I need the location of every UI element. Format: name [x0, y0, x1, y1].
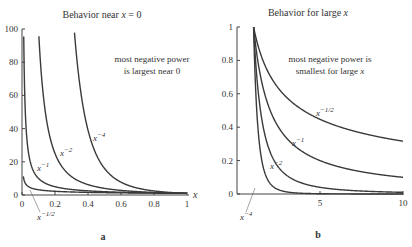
- panel-b-label-leader: [246, 188, 255, 212]
- y-tick-label: 40: [9, 124, 19, 134]
- y-tick-label: 0.6: [222, 89, 234, 99]
- svg-text:x−1: x−1: [36, 161, 49, 173]
- x-tick-label: 0.8: [148, 199, 160, 209]
- y-tick-label: 0.2: [222, 156, 233, 166]
- panel-b: Behavior for large x 00.20.40.60.81 510 …: [222, 7, 408, 240]
- panel-a-label-x-2: x−2: [59, 146, 73, 158]
- y-tick-label: 0.8: [222, 55, 234, 65]
- panel-a-label-x-1-2: x−1/2: [36, 210, 55, 222]
- svg-text:x−1/2: x−1/2: [36, 210, 55, 222]
- panel-b-label-x-1-2: x−1/2: [315, 106, 334, 118]
- panel-b-title: Behavior for large x: [268, 7, 349, 18]
- x-tick-label: 0.2: [49, 199, 60, 209]
- x-tick-label: 0.6: [115, 199, 127, 209]
- panel-a-x-label: x: [192, 189, 198, 200]
- svg-text:x−4: x−4: [239, 210, 253, 222]
- panel-a-label-x-4: x−4: [92, 131, 106, 143]
- y-tick-label: 60: [9, 90, 19, 100]
- y-tick-label: 1: [229, 22, 234, 32]
- panel-a-title: Behavior near x = 0: [63, 9, 142, 20]
- panel-b-label: b: [315, 229, 321, 240]
- panel-a: Behavior near x = 0 020406080100 00.20.4…: [5, 9, 199, 242]
- panel-b-label-x-4: x−4: [239, 210, 253, 222]
- panel-a-label-leader: [30, 190, 40, 212]
- y-tick-label: 0: [229, 189, 234, 199]
- panel-b-annotation-line1: most negative power is: [288, 54, 372, 64]
- y-tick-label: 20: [9, 157, 19, 167]
- x-tick-label: 10: [399, 198, 409, 208]
- panel-a-label-x-1: x−1: [36, 161, 49, 173]
- svg-text:x−1/2: x−1/2: [315, 106, 334, 118]
- figure: Behavior near x = 0 020406080100 00.20.4…: [0, 0, 412, 247]
- panel-b-annotation-line2: smallest for large x: [296, 66, 365, 76]
- svg-text:x−4: x−4: [92, 131, 106, 143]
- y-tick-label: 0.4: [222, 122, 234, 132]
- panel-a-annotation-line2: is largest near 0: [124, 66, 181, 76]
- svg-text:x−1: x−1: [291, 136, 304, 148]
- panel-a-annotation-line1: most negative power: [115, 54, 190, 64]
- y-tick-label: 0: [14, 190, 19, 200]
- curve-x^-1: [254, 27, 403, 177]
- x-tick-label: 0: [20, 199, 25, 209]
- panel-b-label-x-1: x−1: [291, 136, 304, 148]
- svg-text:x−2: x−2: [59, 146, 73, 158]
- x-tick-label: 1: [185, 199, 190, 209]
- x-tick-label: 5: [318, 198, 323, 208]
- y-tick-label: 80: [9, 57, 19, 67]
- y-tick-label: 100: [5, 24, 19, 34]
- x-tick-label: 0.4: [82, 199, 94, 209]
- panel-a-label: a: [101, 231, 106, 242]
